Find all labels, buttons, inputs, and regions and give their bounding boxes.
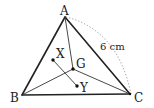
side-bc [22,94,130,95]
label-x: X [56,47,65,61]
point-c [129,93,131,95]
label-b: B [10,91,19,105]
side-ca [65,17,130,94]
measurement-label-ac: 6 cm [100,41,125,52]
triangle-diagram: A B C G X Y 6 cm [0,0,154,108]
label-g: G [76,57,86,71]
label-c: C [134,91,143,105]
segment-xy [53,60,77,86]
point-x [51,58,54,61]
label-y: Y [79,81,89,95]
point-g [71,67,74,70]
point-y [75,84,78,87]
label-a: A [59,4,69,18]
